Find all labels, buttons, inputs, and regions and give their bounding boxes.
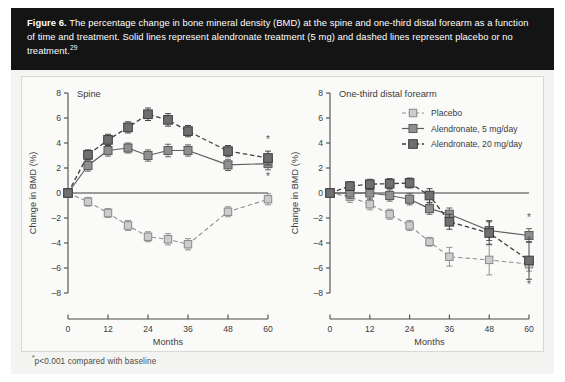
data-point-marker <box>104 147 112 155</box>
data-point-marker <box>406 222 413 229</box>
significance-asterisk: * <box>266 171 270 182</box>
chart-panel-forearm: –8–6–4–20246801224364860MonthsChange in … <box>284 77 545 353</box>
x-tick-label: 60 <box>524 324 534 334</box>
data-point-marker <box>84 162 92 170</box>
data-point-marker <box>366 201 373 208</box>
data-point-marker <box>124 144 132 152</box>
data-point-marker <box>164 236 171 243</box>
significance-asterisk: * <box>527 235 531 246</box>
y-tick-label: 4 <box>318 138 323 148</box>
data-point-marker <box>346 182 355 191</box>
data-point-marker <box>224 147 233 156</box>
x-axis-label: Months <box>414 337 445 347</box>
y-tick-label: 0 <box>56 188 61 198</box>
data-point-marker <box>525 256 534 265</box>
y-tick-label: 8 <box>56 88 61 98</box>
legend-mid-gray-square-marker <box>409 125 417 133</box>
legend-label: Alendronate, 5 mg/day <box>431 124 518 134</box>
spine-plot: –8–6–4–20246801224364860MonthsChange in … <box>22 77 284 353</box>
data-point-marker <box>64 189 73 198</box>
data-point-marker <box>84 151 93 160</box>
y-tick-label: –6 <box>313 263 323 273</box>
x-tick-label: 0 <box>328 324 333 334</box>
charts-board: –8–6–4–20246801224364860MonthsChange in … <box>11 70 554 374</box>
data-point-marker <box>264 154 273 163</box>
x-tick-label: 48 <box>484 324 494 334</box>
legend-label: Placebo <box>431 108 462 118</box>
x-tick-label: 36 <box>445 324 455 334</box>
data-point-marker <box>124 123 133 132</box>
figure-caption: Figure 6. The percentage change in bone … <box>11 8 554 70</box>
data-point-marker <box>224 208 231 215</box>
data-point-marker <box>104 136 113 145</box>
y-tick-label: –2 <box>313 213 323 223</box>
data-point-marker <box>264 196 271 203</box>
significance-asterisk: * <box>527 279 531 290</box>
series-placebo <box>64 189 271 250</box>
legend-light-square-marker <box>409 109 416 116</box>
y-tick-label: 6 <box>318 113 323 123</box>
data-point-marker <box>184 127 193 136</box>
legend-label: Alendronate, 20 mg/day <box>431 139 523 149</box>
x-tick-label: 24 <box>405 324 415 334</box>
x-axis-label: Months <box>153 337 184 347</box>
footnote-text: p<0.001 compared with baseline <box>35 357 157 366</box>
series-alendronate-5-mg-day <box>64 143 272 197</box>
data-point-marker <box>406 195 414 203</box>
data-point-marker <box>366 180 375 189</box>
y-tick-label: –8 <box>313 288 323 298</box>
data-point-marker <box>224 161 232 169</box>
data-point-marker <box>445 217 454 226</box>
data-point-marker <box>446 253 453 260</box>
plot-group: –8–6–4–20246801224364860MonthsChange in … <box>290 88 534 347</box>
y-tick-label: 2 <box>318 163 323 173</box>
significance-asterisk: * <box>527 212 531 223</box>
significance-asterisk: * <box>266 134 270 145</box>
data-point-marker <box>486 256 493 263</box>
data-point-marker <box>184 147 192 155</box>
data-point-marker <box>184 241 191 248</box>
figure-panel: Figure 6. The percentage change in bone … <box>11 8 554 374</box>
charts-frame: –8–6–4–20246801224364860MonthsChange in … <box>21 76 544 352</box>
data-point-marker <box>124 222 131 229</box>
chart-legend: PlaceboAlendronate, 5 mg/dayAlendronate,… <box>402 108 523 149</box>
x-tick-label: 24 <box>143 324 153 334</box>
data-point-marker <box>386 192 394 200</box>
data-point-marker <box>405 179 414 188</box>
data-point-marker <box>425 191 434 200</box>
data-point-marker <box>485 229 494 238</box>
data-point-marker <box>426 238 433 245</box>
data-point-marker <box>104 209 111 216</box>
y-tick-label: –4 <box>51 238 61 248</box>
data-point-marker <box>426 205 434 213</box>
x-tick-label: 12 <box>365 324 375 334</box>
y-tick-label: 0 <box>318 188 323 198</box>
y-tick-label: 8 <box>318 88 323 98</box>
figure-label: Figure 6. <box>27 17 67 28</box>
chart-svg-spine: –8–6–4–20246801224364860MonthsChange in … <box>22 77 284 357</box>
legend-dark-gray-square-marker <box>409 140 418 149</box>
data-point-marker <box>84 198 91 205</box>
footnote: *p<0.001 compared with baseline <box>32 357 156 366</box>
data-point-marker <box>144 110 153 119</box>
y-tick-label: –2 <box>51 213 61 223</box>
x-tick-label: 0 <box>66 324 71 334</box>
x-tick-label: 36 <box>183 324 193 334</box>
y-axis-label: Change in BMD (%) <box>28 152 38 235</box>
figure-caption-reference: 29 <box>70 44 77 51</box>
data-point-marker <box>326 189 335 198</box>
y-tick-label: 6 <box>56 113 61 123</box>
y-tick-label: 4 <box>56 138 61 148</box>
data-point-marker <box>164 116 173 125</box>
y-axis-label: Change in BMD (%) <box>290 152 300 235</box>
chart-title: One-third distal forearm <box>339 89 437 99</box>
data-point-marker <box>366 189 374 197</box>
x-tick-label: 12 <box>103 324 113 334</box>
forearm-plot: –8–6–4–20246801224364860MonthsChange in … <box>284 77 545 353</box>
y-tick-label: –8 <box>51 288 61 298</box>
data-point-marker <box>385 179 394 188</box>
chart-panel-spine: –8–6–4–20246801224364860MonthsChange in … <box>22 77 284 353</box>
data-point-marker <box>164 147 172 155</box>
y-tick-label: 2 <box>56 163 61 173</box>
plot-group: –8–6–4–20246801224364860MonthsChange in … <box>28 88 273 347</box>
